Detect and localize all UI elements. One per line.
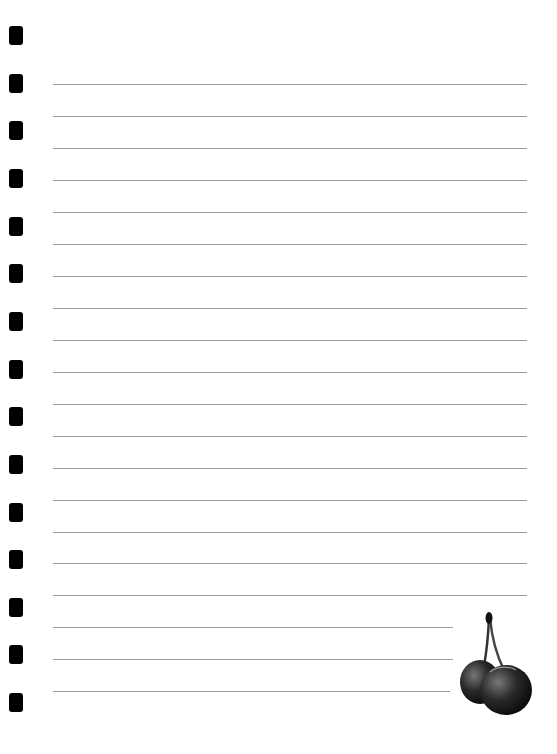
binder-hole bbox=[9, 312, 23, 331]
ruled-line bbox=[53, 436, 527, 437]
binder-hole bbox=[9, 598, 23, 617]
ruled-line bbox=[53, 116, 527, 117]
binder-hole bbox=[9, 360, 23, 379]
binder-hole bbox=[9, 407, 23, 426]
ruled-line bbox=[53, 308, 527, 309]
ruled-line bbox=[53, 532, 527, 533]
ruled-line bbox=[53, 340, 527, 341]
binder-hole bbox=[9, 503, 23, 522]
binder-hole bbox=[9, 121, 23, 140]
ruled-line bbox=[53, 691, 450, 692]
binder-hole bbox=[9, 550, 23, 569]
ruled-line bbox=[53, 212, 527, 213]
ruled-line bbox=[53, 84, 527, 85]
ruled-line bbox=[53, 595, 527, 596]
binder-hole bbox=[9, 645, 23, 664]
binder-hole bbox=[9, 26, 23, 45]
ruled-line bbox=[53, 563, 527, 564]
ruled-line bbox=[53, 276, 527, 277]
binder-hole bbox=[9, 693, 23, 712]
ruled-line bbox=[53, 180, 527, 181]
binder-hole bbox=[9, 264, 23, 283]
ruled-line bbox=[53, 372, 527, 373]
binder-hole bbox=[9, 455, 23, 474]
ruled-line bbox=[53, 244, 527, 245]
binder-hole bbox=[9, 74, 23, 93]
ruled-line bbox=[53, 500, 527, 501]
ruled-line bbox=[53, 659, 453, 660]
cherry-icon bbox=[458, 610, 536, 718]
ruled-line bbox=[53, 404, 527, 405]
ruled-line bbox=[53, 468, 527, 469]
binder-hole bbox=[9, 169, 23, 188]
binder-hole bbox=[9, 217, 23, 236]
ruled-line bbox=[53, 148, 527, 149]
ruled-line bbox=[53, 627, 453, 628]
